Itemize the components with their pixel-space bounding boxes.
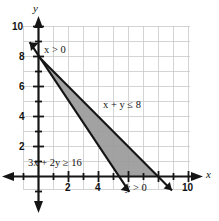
annotation-resource-constraint: 3x + 2y ≥ 16: [28, 158, 82, 169]
line-3x-plus-2y: [30, 42, 130, 192]
x-tick-label-10: 10: [182, 183, 193, 193]
annotation-sum-constraint: x + y ≤ 8: [103, 100, 141, 111]
annotation-x-positive: x > 0: [44, 45, 66, 56]
x-axis: [2, 171, 203, 182]
y-tick-label-4: 4: [19, 112, 25, 122]
y-tick-label-6: 6: [19, 82, 25, 92]
y-tick-label-8: 8: [19, 52, 25, 62]
line-x-plus-y: [39, 57, 173, 191]
x-tick-label-4: 4: [95, 183, 101, 193]
x-tick-label-2: 2: [65, 183, 71, 193]
y-axis-label: y: [33, 3, 38, 14]
x-axis-label: x: [206, 169, 211, 180]
annotation-y-positive: y > 0: [125, 183, 147, 194]
y-tick-label-2: 2: [19, 142, 25, 152]
graph-figure: y x 10 8 6 4 2 2 4 10 x > 0 x + y ≤ 8 3x…: [0, 0, 219, 221]
y-tick-label-10: 10: [12, 22, 23, 32]
